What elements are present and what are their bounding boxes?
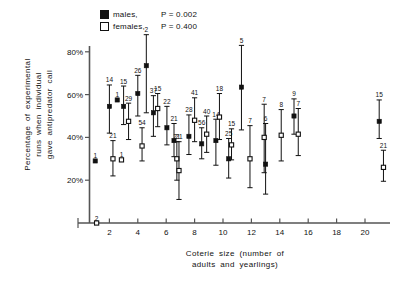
sample-size-label: 15: [228, 120, 236, 127]
data-point-male: 1: [115, 91, 119, 102]
data-point-female: 21: [109, 132, 117, 176]
sample-size-label: 26: [134, 67, 142, 74]
marker-filled-square-icon: [115, 98, 119, 102]
marker-filled-square-icon: [107, 104, 111, 108]
marker-open-square-icon: [126, 119, 130, 123]
marker-open-square-icon: [193, 118, 197, 122]
marker-open-square-icon: [296, 132, 300, 136]
marker-open-square-icon: [381, 165, 385, 169]
sample-size-label: 15: [376, 91, 384, 98]
marker-open-square-icon: [140, 144, 144, 148]
scatter-plot-svg: 20%40%60%80%2468101214161820 11411526237…: [0, 0, 401, 281]
data-point-male: 37: [150, 87, 158, 136]
data-points-group: 1141152623722212856142556915221129541521…: [93, 26, 387, 225]
y-tick-label: 40%: [67, 133, 83, 142]
data-point-female: 7: [247, 117, 252, 188]
x-tick-label: 18: [332, 228, 341, 237]
sample-size-label: 40: [203, 108, 211, 115]
sample-size-label: 1: [120, 151, 124, 158]
marker-open-square-icon: [248, 157, 252, 161]
sample-size-label: 21: [380, 142, 388, 149]
data-point-male: 14: [106, 76, 114, 133]
chart-root: males, P = 0.002 females, P = 0.400 Perc…: [0, 0, 401, 281]
marker-open-square-icon: [119, 158, 123, 162]
sample-size-label: 7: [248, 117, 252, 124]
marker-filled-square-icon: [151, 111, 155, 115]
sample-size-label: 2: [145, 26, 149, 33]
marker-filled-square-icon: [239, 85, 243, 89]
sample-size-label: 15: [120, 78, 128, 85]
data-point-female: 15: [154, 85, 162, 127]
sample-size-label: 9: [292, 90, 296, 97]
marker-open-square-icon: [175, 157, 179, 161]
sample-size-label: 54: [138, 119, 146, 126]
marker-filled-square-icon: [187, 134, 191, 138]
x-tick-label: 6: [164, 228, 169, 237]
marker-open-square-icon: [279, 133, 283, 137]
marker-open-square-icon: [217, 115, 221, 119]
sample-size-label: 29: [125, 95, 133, 102]
marker-open-square-icon: [262, 135, 266, 139]
sample-size-label: 1: [93, 152, 97, 159]
x-tick-label: 14: [275, 228, 284, 237]
data-point-female: 54: [138, 119, 146, 161]
y-tick-label: 60%: [67, 91, 83, 100]
x-axis-title: Coterie size (number of adults and yearl…: [150, 248, 320, 270]
x-tick-label: 16: [304, 228, 313, 237]
marker-open-square-icon: [177, 168, 181, 172]
x-tick-label: 20: [361, 228, 370, 237]
marker-open-square-icon: [229, 143, 233, 147]
data-point-female: 2: [95, 215, 99, 226]
x-axis-title-line2: adults and yearlings): [150, 259, 320, 270]
y-tick-label: 20%: [67, 176, 83, 185]
sample-size-label: 21: [170, 115, 178, 122]
sample-size-label: 21: [175, 133, 183, 140]
sample-size-label: 56: [198, 119, 206, 126]
data-point-male: 1: [93, 152, 97, 163]
data-point-male: 5: [239, 37, 244, 130]
sample-size-label: 18: [216, 85, 224, 92]
data-point-male: 26: [134, 67, 142, 116]
data-point-male: 15: [376, 91, 384, 138]
data-point-female: 21: [380, 142, 388, 182]
sample-size-label: 14: [106, 76, 114, 83]
sample-size-label: 7: [296, 100, 300, 107]
plot-area: 20%40%60%80%2468101214161820 11411526237…: [0, 0, 401, 281]
marker-filled-square-icon: [144, 64, 148, 68]
marker-filled-square-icon: [93, 159, 97, 163]
marker-open-square-icon: [111, 157, 115, 161]
sample-size-label: 8: [279, 101, 283, 108]
data-point-male: 9: [291, 90, 296, 134]
marker-filled-square-icon: [136, 91, 140, 95]
marker-filled-square-icon: [292, 114, 296, 118]
sample-size-label: 7: [262, 96, 266, 103]
x-axis-title-line1: Coterie size (number of: [150, 248, 320, 259]
sample-size-label: 21: [109, 132, 117, 139]
data-point-female: 1: [119, 151, 123, 162]
data-point-female: 8: [279, 101, 284, 161]
data-point-male: 2: [144, 26, 149, 113]
sample-size-label: 2: [95, 215, 99, 222]
x-tick-label: 4: [136, 228, 141, 237]
sample-size-label: 5: [240, 37, 244, 44]
x-tick-label: 10: [219, 228, 228, 237]
data-point-female: 40: [203, 108, 211, 153]
marker-open-square-icon: [95, 221, 99, 225]
data-point-female: 29: [125, 95, 133, 140]
x-tick-label: 8: [192, 228, 197, 237]
data-point-male: 28: [185, 106, 193, 154]
data-point-female: 41: [191, 89, 199, 141]
marker-filled-square-icon: [122, 104, 126, 108]
y-tick-label: 80%: [67, 48, 83, 57]
sample-size-label: 15: [154, 85, 162, 92]
sample-size-label: 22: [163, 98, 171, 105]
x-tick-label: 2: [107, 228, 112, 237]
sample-size-label: 1: [115, 91, 119, 98]
marker-filled-square-icon: [165, 126, 169, 130]
marker-filled-square-icon: [200, 142, 204, 146]
data-point-female: 7: [296, 100, 301, 156]
marker-filled-square-icon: [377, 119, 381, 123]
marker-open-square-icon: [205, 132, 209, 136]
x-tick-label: 12: [247, 228, 256, 237]
marker-open-square-icon: [156, 106, 160, 110]
